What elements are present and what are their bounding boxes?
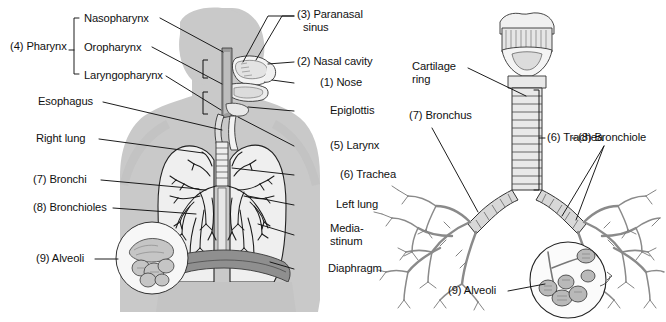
label-mediastinum-line2: stinum — [330, 235, 362, 247]
label-cartilage-ring-line1: Cartilage — [412, 60, 456, 72]
label-cartilage-ring-line2: ring — [412, 73, 430, 85]
label-paranasal-sinus-line1: (3) Paranasal — [297, 8, 363, 20]
thorax-lungs — [156, 142, 296, 312]
label-bronchiole: (8) Bronchiole — [578, 131, 646, 143]
tracheobronchial-tree-art — [374, 13, 664, 318]
label-laryngopharynx: Laryngopharynx — [84, 69, 163, 81]
label-left-lung: Left lung — [336, 198, 378, 210]
label-larynx: (5) Larynx — [330, 139, 379, 151]
label-nasopharynx: Nasopharynx — [84, 12, 149, 24]
label-pharynx: (4) Pharynx — [10, 40, 67, 52]
label-nose: (1) Nose — [320, 76, 362, 88]
label-alveoli-left: (9) Alveoli — [36, 252, 84, 264]
label-esophagus: Esophagus — [38, 95, 93, 107]
label-mediastinum-line1: Media- — [330, 222, 364, 234]
bronchus-leader — [432, 128, 478, 212]
label-nasal-cavity: (2) Nasal cavity — [297, 55, 373, 67]
label-right-lung: Right lung — [36, 132, 85, 144]
label-diaphragm: Diaphragm — [328, 262, 382, 274]
respiratory-system-figure: (4) Pharynx Nasopharynx Oropharynx Laryn… — [0, 0, 666, 322]
label-trachea-left-figure: (6) Trachea — [340, 168, 396, 180]
label-bronchi: (7) Bronchi — [33, 173, 87, 185]
label-oropharynx: Oropharynx — [84, 41, 141, 53]
alveoli-inset-left — [116, 222, 188, 294]
label-alveoli-right: (9) Alveoli — [448, 284, 496, 296]
bronchiole-leader-2 — [576, 146, 604, 220]
pharynx-bracket — [74, 18, 79, 74]
label-bronchioles: (8) Bronchioles — [33, 201, 107, 213]
label-bronchus: (7) Bronchus — [409, 109, 472, 121]
bronchiole-leader-1 — [562, 146, 604, 216]
label-paranasal-sinus-line2: sinus — [303, 21, 329, 33]
label-epiglottis: Epiglottis — [330, 104, 374, 116]
